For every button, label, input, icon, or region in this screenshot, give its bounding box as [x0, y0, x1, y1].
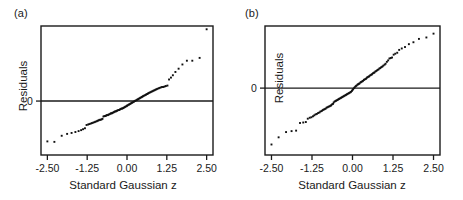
data-point — [310, 116, 312, 118]
data-point — [425, 37, 427, 39]
panel-b-x-axis-title: Standard Gaussian z — [231, 179, 463, 191]
data-point — [199, 57, 201, 59]
x-axis-tick-label: 0.00 — [342, 162, 362, 174]
data-point — [285, 131, 287, 133]
data-point — [78, 130, 80, 132]
y-axis-tick-label: 0 — [27, 95, 33, 107]
data-point — [174, 71, 176, 73]
data-point — [418, 38, 420, 40]
data-point — [385, 63, 387, 65]
x-axis-tick-label: 1.25 — [157, 162, 177, 174]
panel-a-x-axis-title: Standard Gaussian z — [0, 179, 232, 191]
data-point — [394, 53, 396, 55]
data-point — [66, 133, 68, 135]
x-axis-tick-label: -1.25 — [75, 162, 99, 174]
data-point — [170, 77, 172, 79]
data-point — [278, 136, 280, 138]
data-point — [82, 128, 84, 130]
x-axis-tick-label: -2.50 — [260, 162, 284, 174]
data-point — [53, 141, 55, 143]
x-axis-tick-label: -2.50 — [35, 162, 59, 174]
qq-plot-figure: (a) Residuals Standard Gaussian z -2.50-… — [0, 0, 463, 200]
data-point — [412, 41, 414, 43]
data-point — [178, 68, 180, 70]
x-axis-tick-label: -1.25 — [300, 162, 324, 174]
data-point — [295, 130, 297, 132]
data-point — [168, 79, 170, 81]
data-point — [404, 46, 406, 48]
panel-b: (b) Residuals Standard Gaussian z -2.50-… — [231, 0, 463, 200]
data-point — [305, 121, 307, 123]
panel-b-y-axis-title: Residuals — [273, 48, 285, 108]
data-point — [309, 117, 311, 119]
data-point — [186, 60, 188, 62]
x-axis-tick-label: 2.50 — [196, 162, 216, 174]
data-point — [61, 135, 63, 137]
data-point — [396, 52, 398, 54]
x-axis-tick-label: 0.00 — [117, 162, 137, 174]
data-point — [302, 122, 304, 124]
data-point — [102, 118, 104, 120]
data-point — [398, 49, 400, 51]
data-point — [393, 54, 395, 56]
data-point — [433, 33, 435, 35]
y-axis-tick-label: 0 — [251, 82, 257, 94]
data-point — [299, 122, 301, 124]
data-point — [391, 57, 393, 59]
x-axis-tick-label: 2.50 — [423, 162, 443, 174]
data-point — [291, 130, 293, 132]
data-point — [172, 74, 174, 76]
data-point — [307, 118, 309, 120]
data-point — [74, 131, 76, 133]
data-point — [206, 28, 208, 30]
data-point — [181, 64, 183, 66]
panel-a: (a) Residuals Standard Gaussian z -2.50-… — [0, 0, 232, 200]
plot-frame — [41, 26, 213, 155]
data-point — [84, 127, 86, 129]
data-point — [191, 60, 193, 62]
data-point — [167, 85, 169, 87]
data-point — [46, 140, 48, 142]
data-point — [387, 59, 389, 61]
data-point — [271, 144, 273, 146]
data-point — [408, 43, 410, 45]
x-axis-tick-label: 1.25 — [383, 162, 403, 174]
data-point — [80, 129, 82, 131]
data-point — [401, 48, 403, 50]
data-point — [71, 132, 73, 134]
